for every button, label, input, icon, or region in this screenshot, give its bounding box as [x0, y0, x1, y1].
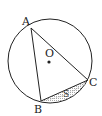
label-o: O — [45, 47, 54, 60]
label-s: S — [63, 89, 69, 99]
label-a: A — [21, 15, 31, 28]
side-ab — [31, 28, 41, 101]
center-dot — [47, 60, 50, 63]
circle-diagram: A O B C S — [0, 0, 102, 116]
label-b: B — [34, 103, 42, 116]
label-c: C — [89, 76, 97, 89]
side-ac — [31, 28, 88, 80]
